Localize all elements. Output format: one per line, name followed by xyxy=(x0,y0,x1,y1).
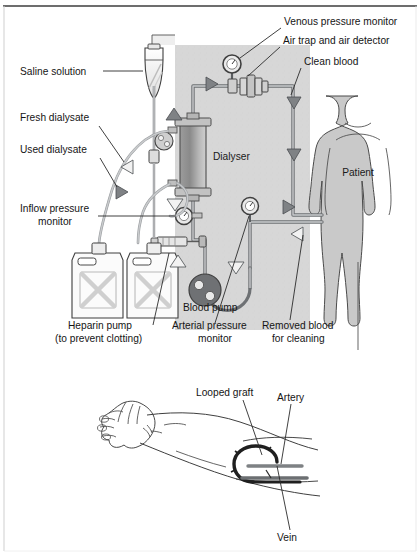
arm-graft-diagram: Looped graft Artery Vein xyxy=(98,387,321,543)
dialysis-diagram: Patient Dialyse xyxy=(0,0,420,557)
vessels xyxy=(242,466,307,478)
label-saline-solution: Saline solution xyxy=(20,66,86,77)
label-inflow-pressure-monitor-line1: Inflow pressure xyxy=(20,203,89,214)
label-arterial-pressure-monitor-line1: Arterial pressure xyxy=(172,320,247,331)
label-arterial-pressure-monitor-line2: monitor xyxy=(198,333,233,344)
label-fresh-dialysate: Fresh dialysate xyxy=(20,112,89,123)
label-blood-pump: Blood pump xyxy=(183,302,238,313)
label-inflow-pressure-monitor-line2: monitor xyxy=(38,216,73,227)
label-removed-blood-line2: for cleaning xyxy=(272,333,325,344)
label-air-trap: Air trap and air detector xyxy=(283,35,390,46)
label-vein: Vein xyxy=(277,532,297,543)
label-heparin-pump-line1: Heparin pump xyxy=(68,320,132,331)
leader-fresh-dialysate xyxy=(99,126,124,162)
dialysate-pump-rotor xyxy=(155,132,173,150)
leader-vein xyxy=(277,466,290,530)
label-venous-pressure-monitor: Venous pressure monitor xyxy=(284,16,398,27)
label-removed-blood-line1: Removed blood xyxy=(262,320,334,331)
leader-used-dialysate xyxy=(100,158,117,187)
dialysate-container-left xyxy=(72,243,123,318)
label-heparin-pump-line2: (to prevent clotting) xyxy=(55,333,142,344)
flow-arrow-used-dialysate xyxy=(116,185,128,199)
flow-arrow-fresh-dialysate xyxy=(121,160,133,174)
clenched-fist xyxy=(98,401,156,448)
label-clean-blood: Clean blood xyxy=(304,56,359,67)
dialysate-container-right xyxy=(127,243,178,318)
leader-artery xyxy=(281,404,291,464)
dialyser-label: Dialyser xyxy=(213,151,250,162)
dialysate-tubing xyxy=(99,131,188,243)
label-used-dialysate: Used dialysate xyxy=(20,144,87,155)
label-looped-graft: Looped graft xyxy=(196,387,253,398)
patient-label: Patient xyxy=(342,167,374,178)
label-artery: Artery xyxy=(277,392,305,403)
figure-canvas: Patient Dialyse xyxy=(0,0,420,557)
